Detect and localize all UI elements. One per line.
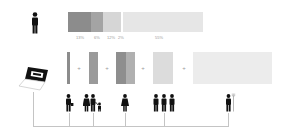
pct-label-5: 55% — [155, 35, 163, 40]
person-briefcase-icon — [64, 94, 74, 112]
pct-label-2: 6% — [94, 35, 100, 40]
connector-tick-woman — [125, 113, 126, 126]
farmer-pitchfork-icon — [224, 93, 238, 112]
pct-label-3: 12% — [107, 35, 115, 40]
connector-tick-family — [93, 113, 94, 126]
bar-segment-2 — [91, 12, 103, 32]
bar-farmer — [193, 52, 272, 84]
pct-label-4: 2% — [118, 35, 124, 40]
plus-sign-2: + — [105, 65, 109, 71]
bar-worker — [67, 52, 70, 84]
pct-label-1: 13% — [76, 35, 84, 40]
connector-tick-farmer — [228, 113, 229, 126]
three-people-icon — [152, 94, 176, 112]
connector-tick-worker — [69, 113, 70, 126]
connector-laptop-vertical — [33, 92, 34, 126]
top-person-icon — [30, 12, 40, 34]
plus-sign-1: + — [77, 65, 81, 71]
laptop-icon — [18, 66, 50, 92]
bar-segment-5 — [123, 12, 203, 32]
connector-tick-group — [164, 113, 165, 126]
bar-woman — [116, 52, 135, 84]
woman-icon — [120, 94, 130, 112]
plus-sign-4: + — [182, 65, 186, 71]
connector-horizontal — [33, 126, 229, 127]
bar-group — [153, 52, 173, 84]
bar-segment-1 — [68, 12, 91, 32]
family-icon — [83, 94, 105, 112]
bar-family — [89, 52, 98, 84]
plus-sign-3: + — [141, 65, 145, 71]
bar-segment-3 — [103, 12, 121, 32]
top-stacked-bar — [68, 12, 203, 32]
